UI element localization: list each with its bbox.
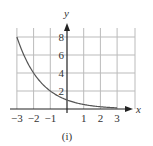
- x-tick-label: −2: [28, 112, 40, 124]
- x-tick-label: 1: [81, 112, 87, 124]
- figure-caption: (i): [62, 130, 73, 143]
- x-tick-label: 2: [98, 112, 104, 124]
- exponential-decay-chart: −3−2−11232468 x y (i): [0, 0, 153, 146]
- x-axis-arrow-icon: [125, 106, 133, 112]
- y-axis-label: y: [63, 7, 69, 19]
- y-tick-label: 2: [59, 85, 65, 97]
- x-tick-label: 3: [114, 112, 120, 124]
- x-tick-label: −3: [11, 112, 23, 124]
- x-tick-label: −1: [44, 112, 56, 124]
- y-tick-label: 6: [59, 49, 65, 61]
- grid: [17, 28, 135, 109]
- x-axis-label: x: [135, 103, 141, 115]
- y-tick-label: 8: [59, 31, 65, 43]
- y-tick-label: 4: [59, 67, 65, 79]
- y-axis-arrow-icon: [64, 23, 70, 31]
- tick-labels: −3−2−11232468: [11, 31, 120, 124]
